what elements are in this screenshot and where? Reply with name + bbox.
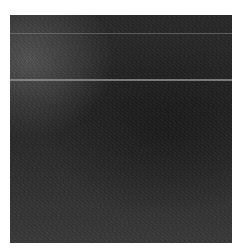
upper-horizontal-line	[10, 33, 232, 34]
lower-horizontal-line	[10, 79, 232, 81]
textured-surface	[10, 15, 232, 243]
grain-texture	[10, 15, 232, 243]
